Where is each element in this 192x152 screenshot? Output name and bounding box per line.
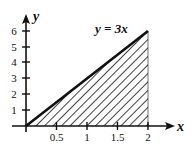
y-tick-label: 1	[11, 104, 17, 116]
y-tick-label: 3	[11, 72, 17, 84]
x-tick-label: 0.5	[50, 131, 64, 143]
x-tick-label: 2	[145, 131, 151, 143]
y-tick-label: 5	[11, 41, 17, 53]
y-tick-label: 4	[11, 56, 17, 68]
y-tick-label: 6	[11, 25, 17, 37]
y-tick-label: 2	[11, 88, 17, 100]
y-axis-label: y	[31, 9, 40, 24]
x-tick-label: 1.5	[111, 131, 125, 143]
chart-canvas: 6 5 4 3 2 1 0.5 1 1.5 2 y x y = 3x	[0, 0, 192, 152]
x-axis-label: x	[176, 119, 184, 134]
equation-label: y = 3x	[93, 21, 128, 36]
x-tick-label: 1	[84, 131, 90, 143]
